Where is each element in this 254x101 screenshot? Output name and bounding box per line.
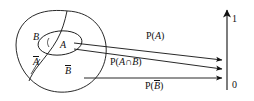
label-event-a-complement: A	[33, 57, 39, 67]
label-prob-a-and-b-prefix: P(	[110, 56, 119, 67]
label-prob-a-and-b-suffix: )	[138, 56, 141, 67]
probability-venn-figure: B A A B P(A) P(A∩B) P(B) 1 0	[0, 0, 254, 101]
label-prob-a-and-b: P(A∩B)	[110, 57, 142, 67]
axis-tick-one: 1	[232, 14, 237, 24]
label-event-b-complement: B	[65, 66, 71, 76]
label-prob-a: P(A)	[146, 31, 164, 41]
label-prob-b-complement-body: B	[154, 81, 160, 91]
label-prob-b-complement-prefix: P(	[145, 80, 154, 91]
label-event-b: B	[33, 32, 39, 42]
label-prob-b-complement: P(B)	[145, 81, 163, 91]
label-event-a: A	[60, 40, 66, 50]
label-prob-a-suffix: )	[161, 30, 164, 41]
mapping-line-p-a	[74, 43, 222, 60]
label-prob-a-prefix: P(	[146, 30, 155, 41]
a-inner-tick	[48, 38, 50, 47]
label-a-complement-base: A	[33, 57, 39, 67]
axis-tick-zero: 0	[232, 80, 237, 90]
label-b-complement-base: B	[65, 66, 71, 76]
diagram-canvas	[0, 0, 254, 101]
label-prob-a-and-b-body: A∩B	[119, 56, 138, 67]
mapping-line-p-a-and-b	[74, 49, 222, 69]
label-prob-b-complement-suffix: )	[160, 80, 163, 91]
